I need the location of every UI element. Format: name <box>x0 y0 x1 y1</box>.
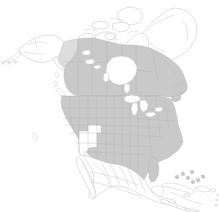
hispaniola-island <box>195 186 210 192</box>
central-america-isthmus <box>160 199 199 212</box>
north-america-map <box>0 0 219 212</box>
offshore-detail <box>33 72 66 141</box>
vancouver-island <box>56 88 66 96</box>
puerto-rico-island <box>210 189 216 192</box>
lesser-antilles-islands <box>215 194 219 206</box>
map-figure: North America regional highlight map Out… <box>0 0 219 212</box>
bahamas-islands <box>175 170 205 184</box>
region-alaska[interactable] <box>2 35 66 70</box>
pacific-coast-islands <box>33 72 59 141</box>
melville-island <box>92 21 109 29</box>
region-central-america[interactable] <box>160 199 199 212</box>
alaska-peninsula <box>4 52 21 62</box>
devon-island <box>113 22 130 32</box>
jamaica-island <box>183 194 190 197</box>
cuba-island <box>162 183 195 194</box>
